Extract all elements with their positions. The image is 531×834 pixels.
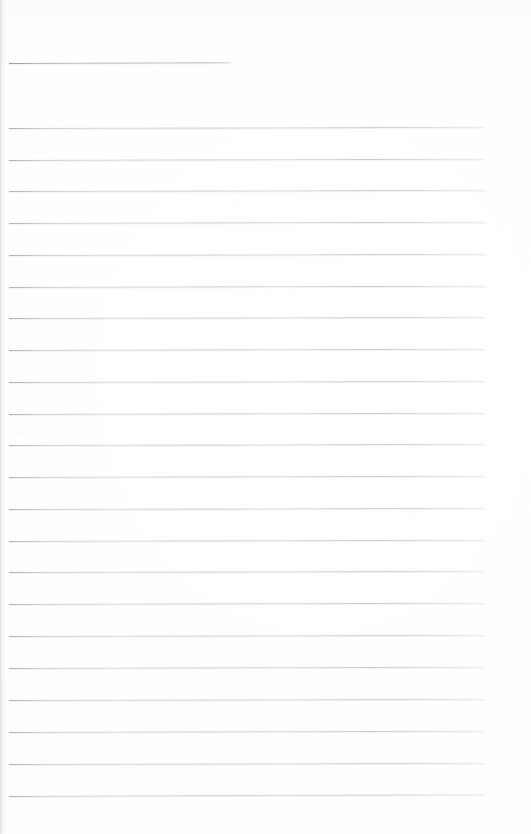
title-rule [9, 62, 231, 64]
writing-area[interactable] [9, 80, 485, 810]
scanned-page [0, 0, 531, 834]
left-scan-edge-shadow [0, 0, 5, 834]
